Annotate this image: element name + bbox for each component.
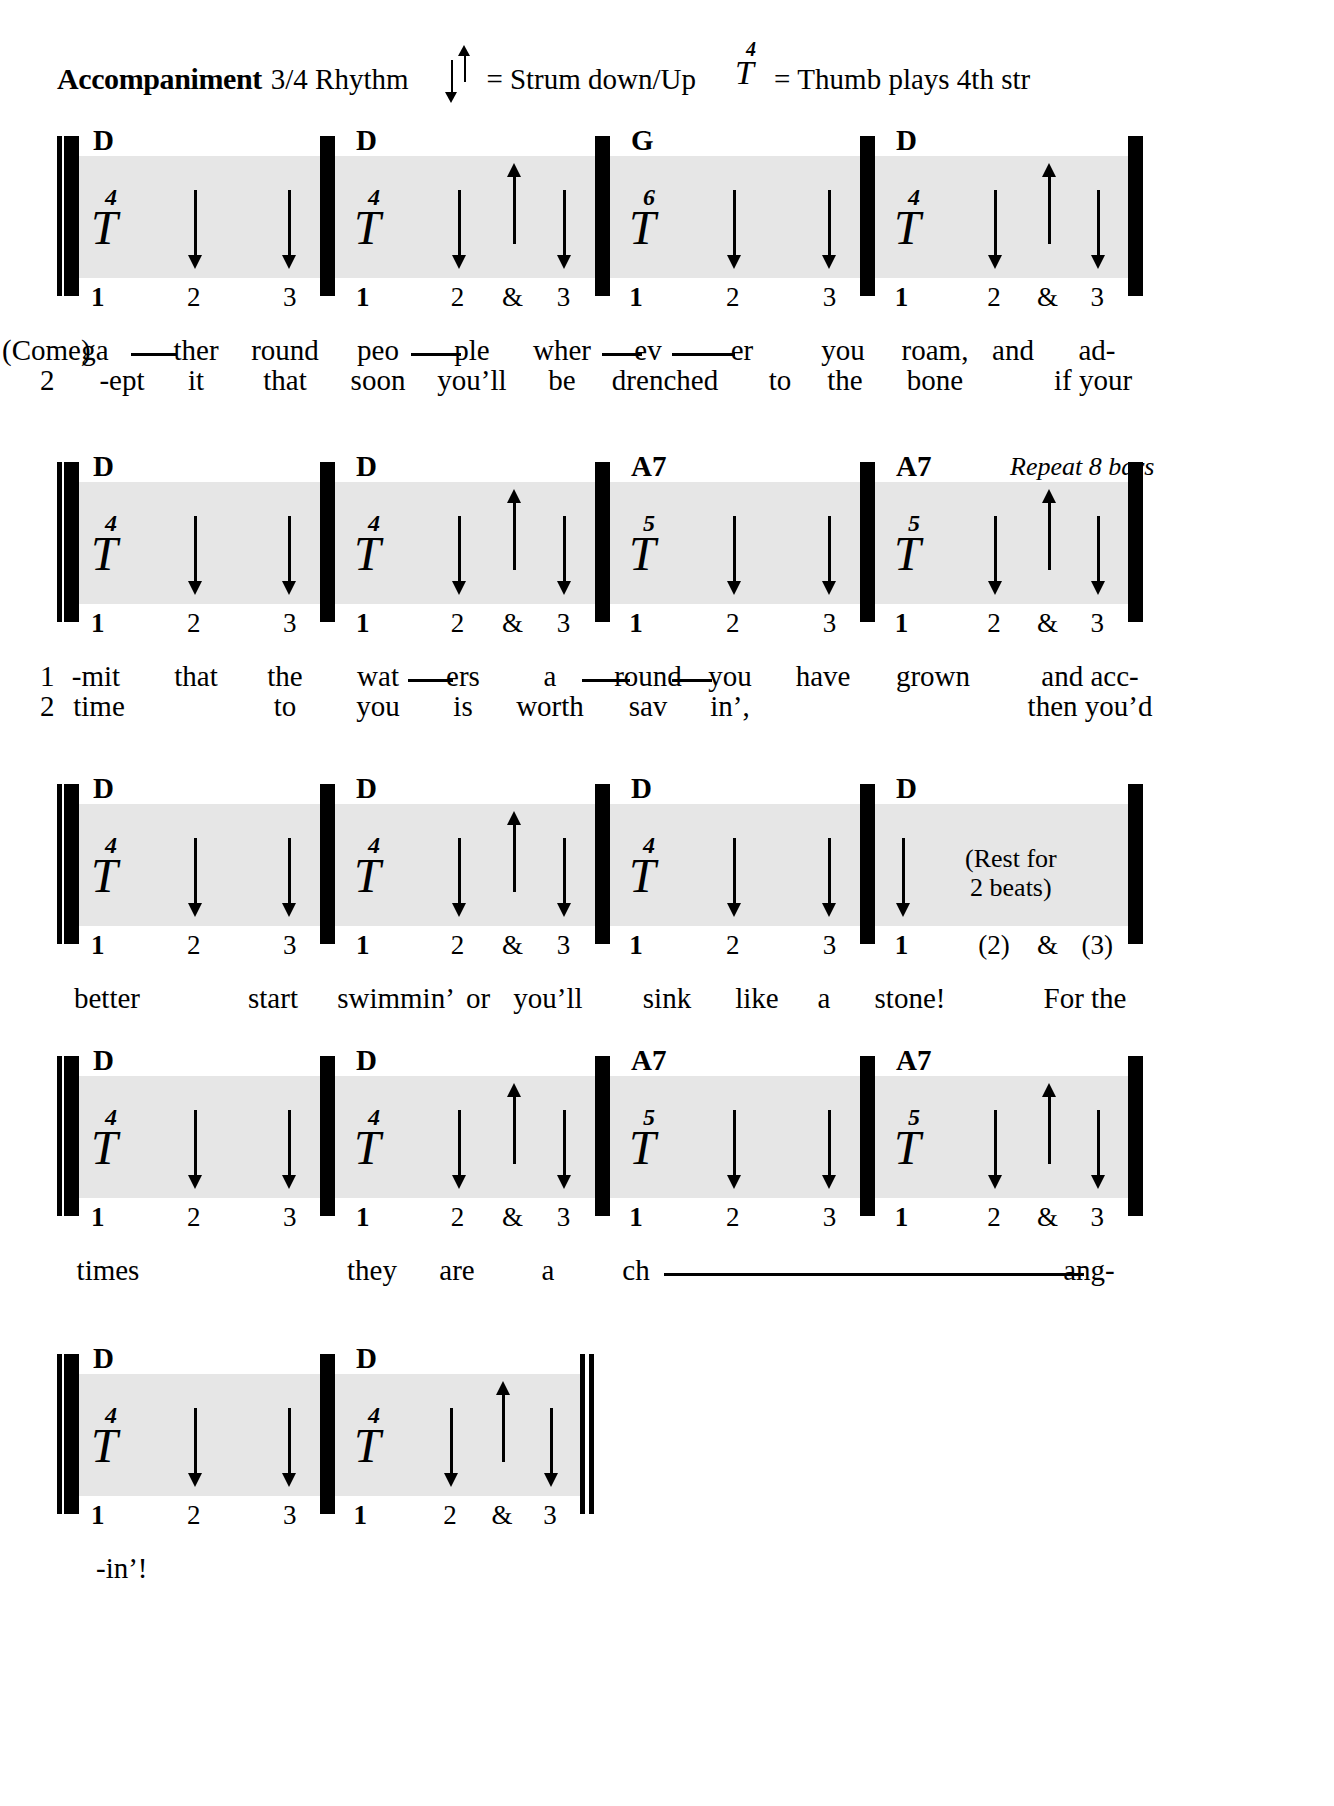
beat-count: &	[502, 282, 523, 313]
lyric-syllable: if your	[1054, 364, 1132, 397]
arrowhead	[282, 1175, 296, 1189]
strum-down-arrow	[458, 190, 461, 258]
beat-count: 1	[354, 1500, 368, 1531]
lyric-syllable: wher	[533, 334, 591, 367]
lyric-syllable: (Come)	[2, 334, 91, 367]
chord-symbol: D	[896, 772, 917, 805]
strum-down-arrow	[288, 1110, 291, 1178]
thumb-symbol: 4T	[894, 184, 946, 260]
thumb-symbol: 4T	[91, 1104, 143, 1180]
lyric-extender-dash	[664, 1273, 1084, 1276]
strum-down-arrow	[828, 190, 831, 258]
barline	[860, 136, 875, 296]
lyric-syllable: ev	[634, 334, 661, 367]
legend-thumb-text: Thumb plays 4th str	[797, 63, 1030, 96]
lyric-syllable: in’,	[710, 690, 749, 723]
arrowhead	[727, 1175, 741, 1189]
thumb-letter: T	[91, 204, 118, 252]
arrowhead	[188, 1175, 202, 1189]
lyric-syllable: you’ll	[437, 364, 506, 397]
lyric-syllable: it	[188, 364, 204, 397]
thumb-letter: T	[91, 530, 118, 578]
beat-count: &	[1037, 282, 1058, 313]
thumb-symbol: 4T	[91, 1402, 143, 1478]
beat-count: 1	[356, 282, 370, 313]
arrowhead	[452, 581, 466, 595]
strum-down-arrow	[828, 838, 831, 906]
lyric-syllable: stone!	[875, 982, 946, 1015]
beat-count: 2	[987, 608, 1001, 639]
lyric-syllable: a	[818, 982, 831, 1015]
strum-down-arrow	[550, 1408, 553, 1476]
lyric-syllable: you	[821, 334, 865, 367]
arrowhead	[282, 255, 296, 269]
beat-count: 1	[356, 608, 370, 639]
arrowhead	[727, 255, 741, 269]
arrowhead	[188, 903, 202, 917]
thumb-letter: T	[354, 1124, 381, 1172]
arrowhead	[1042, 489, 1056, 503]
thumb-symbol: 5T	[894, 510, 946, 586]
lyric-syllable: the	[827, 364, 862, 397]
lyric-extender-dash	[672, 353, 735, 356]
beat-count: 1	[895, 930, 909, 961]
strum-down-arrow	[733, 516, 736, 584]
lyric-syllable: roam,	[902, 334, 969, 367]
beat-count: 1	[91, 1202, 105, 1233]
arrowhead	[282, 1473, 296, 1487]
thumb-letter: T	[354, 530, 381, 578]
strum-down-arrow	[733, 190, 736, 258]
strum-up-arrow	[1048, 1094, 1051, 1164]
lyric-syllable: to	[769, 364, 792, 397]
lyric-syllable: wat	[357, 660, 399, 693]
thumb-symbol: 4T	[91, 832, 143, 908]
arrowhead	[822, 1175, 836, 1189]
strum-down-arrow	[458, 516, 461, 584]
beat-count: 1	[356, 1202, 370, 1233]
lyric-syllable: round	[614, 660, 682, 693]
repeat-annotation: Repeat 8 bars	[1010, 452, 1154, 482]
lyric-syllable: or	[466, 982, 490, 1015]
beat-count: &	[1037, 608, 1058, 639]
strum-down-arrow	[450, 1408, 453, 1476]
beat-count: 1	[895, 282, 909, 313]
lyric-syllable: sink	[643, 982, 691, 1015]
beat-count: 2	[451, 1202, 465, 1233]
barline-end-thick	[1128, 784, 1143, 944]
chord-symbol: A7	[896, 450, 931, 483]
arrowhead	[727, 581, 741, 595]
thumb-symbol: 4T	[91, 510, 143, 586]
lyric-syllable: bone	[907, 364, 963, 397]
arrowhead	[727, 903, 741, 917]
beat-count: 3	[557, 608, 571, 639]
strum-down-arrow	[828, 1110, 831, 1178]
beat-count: 3	[283, 930, 297, 961]
beat-count: &	[502, 1202, 523, 1233]
lyric-syllable: ers	[446, 660, 480, 693]
beat-count: 1	[91, 608, 105, 639]
beat-count: &	[1037, 930, 1058, 961]
strum-up-arrow	[502, 1392, 505, 1462]
strum-up-icon	[464, 54, 467, 82]
strum-up-arrow	[1048, 174, 1051, 244]
arrowhead	[507, 811, 521, 825]
barline	[320, 1056, 335, 1216]
thumb-symbol: 6T	[629, 184, 681, 260]
strum-down-arrow	[288, 1408, 291, 1476]
beat-count: 2	[726, 608, 740, 639]
strum-down-arrow	[194, 1408, 197, 1476]
thumb-letter: T	[894, 1124, 921, 1172]
arrowhead	[188, 581, 202, 595]
beat-count: 2	[187, 930, 201, 961]
barline-open-thick	[64, 784, 79, 944]
lyric-syllable: round	[251, 334, 319, 367]
barline	[595, 784, 610, 944]
thumb-symbol: 4T	[354, 184, 406, 260]
chord-symbol: A7	[896, 1044, 931, 1077]
lyric-extender-dash	[131, 353, 176, 356]
arrowhead	[282, 581, 296, 595]
lyric-syllable: be	[548, 364, 575, 397]
lyric-syllable: sav	[629, 690, 668, 723]
barline	[860, 784, 875, 944]
beat-count: 1	[356, 930, 370, 961]
